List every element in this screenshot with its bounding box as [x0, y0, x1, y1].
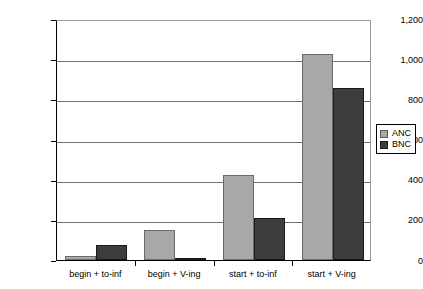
bar-group: [223, 21, 285, 260]
bar-bnc: [175, 258, 206, 260]
legend-swatch-icon: [380, 130, 388, 138]
bar-group: [144, 21, 206, 260]
plot-area: [56, 20, 371, 261]
y-axis-tick-label: 1,000: [377, 56, 423, 65]
legend-item: BNC: [380, 139, 411, 150]
bar-anc: [302, 54, 333, 260]
y-axis-tick-label: 200: [377, 216, 423, 225]
x-axis-category-label: begin + to-inf: [56, 269, 135, 279]
legend-item-label: ANC: [392, 129, 411, 138]
y-axis-tick-mark: [51, 261, 56, 262]
x-axis-tick-mark: [214, 261, 215, 266]
x-axis-category-label: start + to-inf: [214, 269, 293, 279]
legend-swatch-icon: [380, 141, 388, 149]
bar-group: [65, 21, 127, 260]
y-axis-tick-label: 0: [377, 257, 423, 266]
bar-anc: [144, 230, 175, 260]
x-axis-tick-mark: [135, 261, 136, 266]
chart-legend: ANCBNC: [376, 124, 416, 154]
bar-bnc: [333, 88, 364, 260]
y-axis-tick-label: 800: [377, 96, 423, 105]
bar-bnc: [254, 218, 285, 260]
legend-item-label: BNC: [392, 140, 411, 149]
bar-chart: 02004006008001,0001,200 begin + to-infbe…: [0, 0, 423, 289]
y-axis-tick-label: 400: [377, 176, 423, 185]
bar-anc: [65, 256, 96, 260]
bar-anc: [223, 175, 254, 260]
legend-item: ANC: [380, 128, 411, 139]
y-axis-tick-label: 1,200: [377, 16, 423, 25]
x-axis-category-label: begin + V-ing: [135, 269, 214, 279]
bar-group: [302, 21, 364, 260]
x-axis-tick-mark: [292, 261, 293, 266]
bar-bnc: [96, 245, 127, 260]
x-axis-category-label: start + V-ing: [292, 269, 371, 279]
